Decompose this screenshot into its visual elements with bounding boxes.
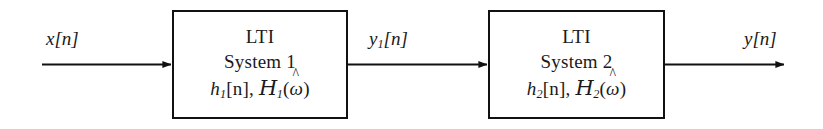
- signal-label-intermediate: y1[n]: [369, 28, 408, 50]
- block-2-frequency-response: H: [575, 76, 593, 100]
- block-1-impulse-index: [n]: [226, 78, 249, 99]
- lti-system-1-block: LTI System 1 h1[n], H1(ω): [172, 10, 348, 119]
- connector-layer: [0, 0, 823, 129]
- input-signal-index: [n]: [54, 28, 78, 49]
- block-1-paren-close: ): [303, 78, 310, 99]
- block-2-omega-hat: ω: [606, 76, 620, 103]
- signal-label-input: x[n]: [46, 28, 79, 50]
- block-1-line-2: System 1: [224, 50, 296, 75]
- block-1-line-1: LTI: [246, 25, 274, 50]
- block-1-omega-hat: ω: [290, 76, 304, 103]
- block-2-impulse-index: [n]: [543, 78, 566, 99]
- block-diagram: x[n] y1[n] y[n] LTI System 1 h1[n], H1(ω…: [0, 0, 823, 129]
- block-1-math: h1[n], H1(ω): [210, 74, 309, 104]
- block-1-separator: ,: [249, 78, 259, 99]
- block-2-separator: ,: [566, 78, 576, 99]
- block-2-line-1: LTI: [562, 25, 590, 50]
- block-2-paren-close: ): [620, 78, 627, 99]
- block-2-math: h2[n], H2(ω): [527, 74, 626, 104]
- lti-system-2-block: LTI System 2 h2[n], H2(ω): [488, 10, 665, 119]
- block-1-frequency-response: H: [259, 76, 277, 100]
- intermediate-signal-index: [n]: [384, 28, 408, 49]
- signal-label-output: y[n]: [744, 28, 777, 50]
- block-2-line-2: System 2: [541, 50, 613, 75]
- output-signal-index: [n]: [752, 28, 776, 49]
- block-2-impulse-response: h: [527, 78, 537, 99]
- block-1-impulse-response: h: [210, 78, 220, 99]
